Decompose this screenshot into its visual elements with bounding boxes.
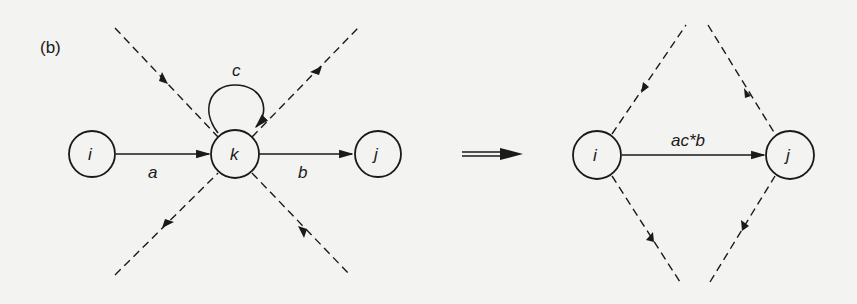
implies-arrow-icon [462,148,523,160]
node-k-label: k [230,145,240,164]
panel-label: (b) [40,38,61,57]
state-elimination-diagram: (b) c a b i k [0,0,857,304]
right-graph: ac*b i j [573,25,814,282]
node-k: k [211,130,259,178]
node-j: j [766,131,814,179]
node-i: i [69,131,115,177]
node-i-label: i [593,146,598,165]
dashed-arrowheads [641,82,751,242]
dashed-arrowheads [159,66,322,238]
edge-label-c: c [232,61,241,80]
edge-label-b: b [298,163,307,182]
node-j-label: j [784,146,791,165]
node-i-label: i [88,145,93,164]
self-loop-edge [209,85,264,133]
left-graph: c a b i k j [69,28,401,275]
node-i: i [573,131,621,179]
node-j-label: j [372,145,379,164]
edge-label-a: a [148,163,157,182]
node-j: j [355,131,401,177]
edge-label-ac-star-b: ac*b [671,131,705,150]
dashed-edges [612,25,775,282]
